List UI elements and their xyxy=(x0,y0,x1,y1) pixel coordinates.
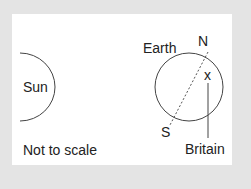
britain-label: Britain xyxy=(185,142,225,156)
earth-axis xyxy=(170,52,208,125)
sun-label: Sun xyxy=(23,80,48,94)
north-label: N xyxy=(198,34,208,48)
earth-circle xyxy=(155,53,223,121)
scale-note: Not to scale xyxy=(23,143,97,157)
britain-marker: x xyxy=(204,68,211,82)
earth-label: Earth xyxy=(143,41,176,55)
south-label: S xyxy=(161,125,170,139)
